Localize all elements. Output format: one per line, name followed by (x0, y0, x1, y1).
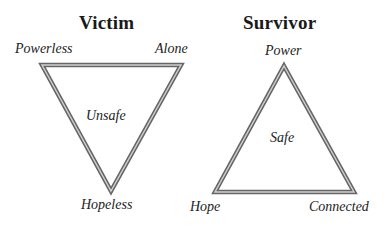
survivor-title: Survivor (243, 12, 316, 34)
survivor-label-hope: Hope (190, 199, 220, 215)
survivor-triangle (215, 66, 354, 192)
victim-label-powerless: Powerless (15, 41, 73, 57)
victim-triangle (42, 65, 181, 191)
victim-label-hopeless: Hopeless (81, 197, 132, 213)
victim-title: Victim (79, 12, 134, 34)
survivor-label-power: Power (265, 43, 302, 59)
survivor-label-safe: Safe (270, 130, 294, 146)
survivor-label-connected: Connected (309, 199, 369, 215)
triangles-canvas (0, 0, 391, 227)
victim-label-alone: Alone (155, 41, 188, 57)
victim-label-unsafe: Unsafe (86, 108, 126, 124)
